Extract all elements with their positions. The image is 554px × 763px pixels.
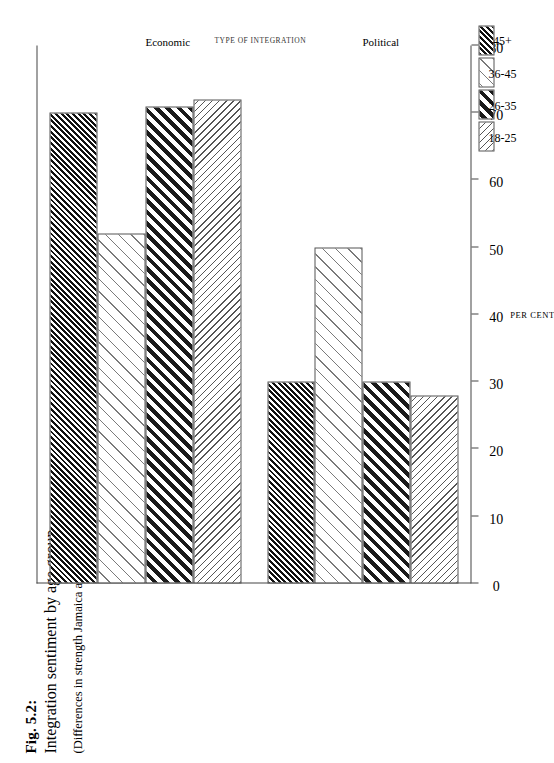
category-label-political: Political	[362, 35, 399, 47]
value-axis-tick-label: 60	[476, 175, 516, 191]
legend-label-26-35: 26-35	[488, 98, 516, 110]
value-axis-tick-label: 20	[476, 444, 516, 460]
legend-item-18-25: 18-25	[478, 121, 508, 151]
plot-area: 01020304050607080 EconomicPoliticalTYPE …	[36, 45, 471, 583]
legend-item-36-45: 36-45	[478, 57, 508, 87]
value-axis-label: PER CENT	[510, 309, 554, 319]
legend: 18-2526-3536-4545+	[478, 1, 512, 151]
legend-label-18-25: 18-25	[488, 130, 516, 142]
bar-economic-36-45	[97, 233, 145, 583]
bar-economic-45plus	[49, 112, 97, 583]
bar-political-45plus	[267, 381, 315, 583]
bar-political-18-25	[410, 395, 458, 583]
plot-frame-top	[36, 45, 37, 583]
legend-swatch-45plus	[478, 25, 494, 55]
legend-item-26-35: 26-35	[478, 89, 508, 119]
value-axis-tick-label: 0	[476, 578, 516, 594]
bar-economic-26-35	[145, 106, 193, 583]
bar-economic-18-25	[193, 99, 241, 583]
bar-political-26-35	[362, 381, 410, 583]
category-axis-title: TYPE OF INTEGRATION	[214, 35, 306, 44]
legend-label-36-45: 36-45	[488, 66, 516, 78]
legend-item-45plus: 45+	[478, 25, 508, 55]
value-axis-tick-label: 50	[476, 242, 516, 258]
value-axis-tick-label: 30	[476, 376, 516, 392]
value-axis-tick-label: 10	[476, 511, 516, 527]
legend-label-45plus: 45+	[493, 34, 512, 46]
bar-political-36-45	[314, 247, 362, 583]
category-label-economic: Economic	[145, 35, 190, 47]
